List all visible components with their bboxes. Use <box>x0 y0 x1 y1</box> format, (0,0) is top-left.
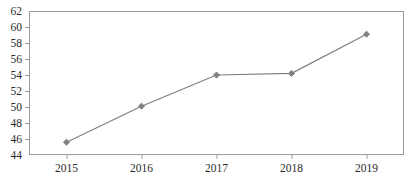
x-tick-label: 2019 <box>355 162 378 174</box>
y-tick-label: 48 <box>11 117 23 129</box>
y-tick-label: 60 <box>11 21 23 33</box>
y-tick-label: 56 <box>11 53 23 65</box>
x-tick-label: 2017 <box>205 162 228 174</box>
y-tick-label: 50 <box>11 101 23 113</box>
y-tick-label: 46 <box>11 133 23 145</box>
y-tick-label: 54 <box>11 69 23 81</box>
chart-canvas: 4446485052545658606220152016201720182019 <box>0 0 416 181</box>
y-tick-label: 62 <box>11 5 23 17</box>
y-tick-label: 52 <box>11 85 23 97</box>
y-tick-label: 44 <box>11 149 23 161</box>
y-tick-label: 58 <box>11 37 23 49</box>
x-tick-label: 2016 <box>130 162 153 174</box>
x-tick-label: 2018 <box>280 162 303 174</box>
x-tick-label: 2015 <box>55 162 78 174</box>
x-axis-ticks: 20152016201720182019 <box>55 155 378 174</box>
y-axis-ticks: 44464850525456586062 <box>11 5 30 161</box>
line-chart: 4446485052545658606220152016201720182019 <box>0 0 416 181</box>
